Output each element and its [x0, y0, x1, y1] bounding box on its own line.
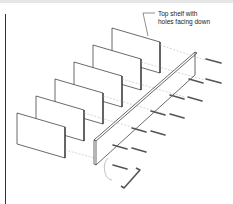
callout-line-2: holes facing down: [158, 18, 228, 26]
rotate-arrow-icon: [104, 158, 112, 180]
allen-key-icon: [121, 168, 140, 188]
callout-line-1: Top shelf with: [158, 10, 228, 18]
assembly-diagram: [0, 0, 233, 204]
callout-leader: [143, 13, 155, 36]
top-shelf-callout: Top shelf with holes facing down: [158, 10, 228, 26]
